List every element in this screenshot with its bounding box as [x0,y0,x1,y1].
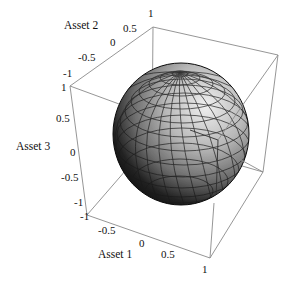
x-tick-neg1: -1 [80,211,89,222]
z-tick-0.5: 0.5 [56,113,70,124]
y-tick-0.5: 0.5 [123,23,137,34]
x-tick-0: 0 [139,238,145,249]
axis-title-asset2: Asset 2 [64,20,98,32]
y-tick-0: 0 [110,37,116,48]
z-tick-neg1: -1 [74,197,83,208]
axis-title-asset3: Asset 3 [16,141,50,153]
z-tick-0: 0 [70,147,76,158]
y-tick-neg1: -1 [63,68,72,79]
x-tick-neg0.5: -0.5 [98,225,115,236]
y-tick-neg0.5: -0.5 [78,52,95,63]
z-tick-neg0.5: -0.5 [61,172,78,183]
z-tick-1: 1 [61,82,67,93]
x-tick-1: 1 [202,264,208,275]
sphere-surface [110,63,255,208]
axis-title-asset1: Asset 1 [98,249,132,261]
x-tick-0.5: 0.5 [161,249,175,260]
y-tick-1: 1 [148,8,154,19]
